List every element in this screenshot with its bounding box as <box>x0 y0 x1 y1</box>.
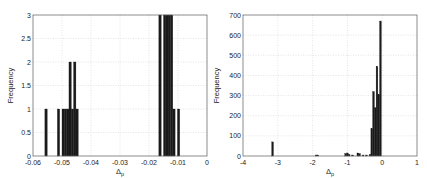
y-tick-label: 300 <box>229 92 241 99</box>
y-tick-label: 100 <box>229 132 241 139</box>
y-tick-label: 500 <box>229 52 241 59</box>
histogram-bar <box>164 15 166 156</box>
histogram-bar <box>67 109 69 156</box>
x-tick-label: 0 <box>205 159 209 166</box>
histogram-bar <box>173 109 175 156</box>
left-histogram: -0.06-0.05-0.04-0.03-0.02-0.01000.511.52… <box>6 12 209 178</box>
y-tick-label: 700 <box>229 12 241 19</box>
x-tick-label: 0 <box>380 159 384 166</box>
histogram-bar <box>76 109 78 156</box>
histogram-bar <box>359 154 361 156</box>
histogram-bar <box>272 142 274 156</box>
x-tick-label: -0.01 <box>170 159 186 166</box>
right-histogram: -4-3-2-1010100200300400500600700ΔpFreque… <box>212 12 419 178</box>
histogram-figure: -0.06-0.05-0.04-0.03-0.02-0.01000.511.52… <box>0 0 427 178</box>
x-tick-label: -2 <box>309 159 315 166</box>
histogram-bar <box>374 108 376 156</box>
y-tick-label: 1 <box>27 106 31 113</box>
x-tick-label: -3 <box>275 159 281 166</box>
x-axis-label: Δp <box>326 167 334 177</box>
x-tick-label: -0.03 <box>112 159 128 166</box>
y-tick-label: 400 <box>229 72 241 79</box>
y-tick-label: 2 <box>27 59 31 66</box>
histogram-bar <box>347 153 349 156</box>
y-tick-label: 3 <box>27 12 31 19</box>
histogram-bar <box>166 15 168 156</box>
histogram-bar <box>64 109 66 156</box>
x-tick-label: 1 <box>415 159 419 166</box>
histogram-bar <box>345 154 347 156</box>
y-tick-label: 0 <box>237 153 241 160</box>
x-axis-label: Δp <box>116 167 124 177</box>
histogram-bar <box>62 109 64 156</box>
x-tick-label: -1 <box>344 159 350 166</box>
y-tick-label: 0.5 <box>21 129 31 136</box>
histogram-bar <box>168 15 170 156</box>
y-axis-label: Frequency <box>6 68 15 104</box>
histogram-bar <box>74 62 76 156</box>
histogram-bar <box>159 15 161 156</box>
y-tick-label: 0 <box>27 153 31 160</box>
histogram-bar <box>57 109 59 156</box>
histogram-bar <box>373 92 375 156</box>
x-tick-label: -0.05 <box>54 159 70 166</box>
x-tick-label: -0.02 <box>141 159 157 166</box>
histogram-bar <box>177 109 179 156</box>
histogram-bar <box>71 109 73 156</box>
histogram-bar <box>371 129 373 156</box>
y-tick-label: 1.5 <box>21 82 31 89</box>
y-tick-label: 600 <box>229 32 241 39</box>
histogram-bar <box>357 153 359 156</box>
y-tick-label: 200 <box>229 112 241 119</box>
x-tick-label: -4 <box>240 159 246 166</box>
histogram-bar <box>170 15 172 156</box>
histogram-bar <box>45 109 47 156</box>
x-tick-label: -0.06 <box>25 159 41 166</box>
plot-area <box>243 15 417 156</box>
y-axis-label: Frequency <box>212 68 221 104</box>
y-tick-label: 2.5 <box>21 35 31 42</box>
histogram-bar <box>378 95 380 156</box>
histogram-bar <box>69 62 71 156</box>
x-tick-label: -0.04 <box>83 159 99 166</box>
histogram-bar <box>376 66 378 156</box>
histogram-bar <box>380 21 382 156</box>
